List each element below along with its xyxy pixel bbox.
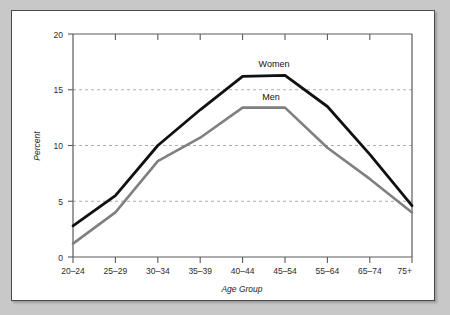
x-axis-ticks	[73, 34, 412, 263]
x-tick-label-20-24: 20–24	[61, 266, 85, 276]
chart-card: 0 5 10 15 20	[11, 10, 435, 301]
x-axis-title: Age Group	[220, 284, 262, 294]
series-annotation-women: Women	[259, 59, 290, 69]
x-tick-label-40-44: 40–44	[231, 266, 255, 276]
series-annotation-men: Men	[262, 92, 280, 102]
x-tick-label-75-plus: 75+	[398, 266, 412, 276]
y-tick-label-15: 15	[54, 85, 64, 95]
y-tick-label-0: 0	[58, 253, 63, 263]
x-tick-label-55-64: 55–64	[316, 266, 340, 276]
x-tick-label-25-29: 25–29	[104, 266, 128, 276]
line-chart: 0 5 10 15 20	[12, 11, 434, 300]
y-axis-ticks	[68, 34, 73, 257]
y-tick-label-5: 5	[58, 197, 63, 207]
figure-root: 0 5 10 15 20	[0, 0, 450, 315]
x-tick-label-30-34: 30–34	[146, 266, 170, 276]
y-axis-tick-labels: 0 5 10 15 20	[54, 30, 64, 263]
y-tick-label-10: 10	[54, 141, 64, 151]
y-tick-label-20: 20	[54, 30, 64, 40]
x-tick-label-45-54: 45–54	[273, 266, 297, 276]
y-axis-title: Percent	[32, 131, 42, 161]
series-line-men	[73, 108, 412, 244]
x-tick-label-35-39: 35–39	[188, 266, 212, 276]
x-tick-label-65-74: 65–74	[358, 266, 382, 276]
x-axis-tick-labels: 20–24 25–29 30–34 35–39 40–44 45–54 55–6…	[61, 266, 412, 276]
